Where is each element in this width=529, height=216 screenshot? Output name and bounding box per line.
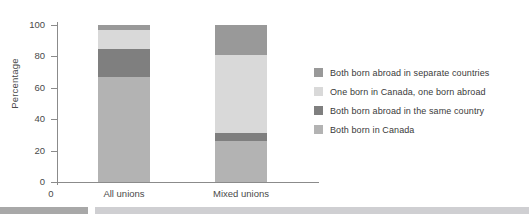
bar-segment[interactable] — [98, 77, 150, 182]
y-axis-tick-label: 20 — [3, 145, 45, 156]
bar-mixed-unions[interactable] — [215, 25, 267, 182]
legend-swatch-icon — [314, 106, 323, 115]
legend-item-label: Both born abroad in the same country — [330, 106, 484, 116]
legend-swatch-icon — [314, 125, 323, 134]
legend-item-label: Both born in Canada — [330, 125, 414, 135]
bar-segment[interactable] — [98, 49, 150, 77]
bar-segment[interactable] — [215, 133, 267, 141]
legend-item[interactable]: Both born abroad in the same country — [314, 101, 528, 120]
plot-area — [57, 25, 317, 182]
bar-segment[interactable] — [215, 141, 267, 182]
stacked-bar-chart: Percentage 020406080100 All unionsMixed … — [0, 0, 529, 216]
y-axis-tick-label: 40 — [3, 113, 45, 124]
y-axis-tick-label: 100 — [3, 19, 45, 30]
y-axis-tick-label: 0 — [3, 176, 45, 187]
footer-accent-bar-right — [95, 207, 529, 214]
y-axis-tick-label: 80 — [3, 50, 45, 61]
x-axis-label-all-unions: All unions — [64, 188, 184, 199]
y-axis-tick — [51, 182, 57, 183]
bar-segment[interactable] — [98, 25, 150, 30]
origin-label: 0 — [38, 188, 64, 199]
legend-item[interactable]: Both born abroad in separate countries — [314, 63, 528, 82]
footer-accent-bar-left — [0, 207, 88, 214]
bar-all-unions[interactable] — [98, 25, 150, 182]
legend-item-label: One born in Canada, one born abroad — [330, 87, 486, 97]
legend-swatch-icon — [314, 87, 323, 96]
legend-swatch-icon — [314, 68, 323, 77]
y-axis-tick-label: 60 — [3, 82, 45, 93]
chart-legend: Both born abroad in separate countriesOn… — [314, 63, 528, 139]
x-axis-line — [57, 182, 319, 183]
bar-segment[interactable] — [98, 30, 150, 49]
legend-item[interactable]: Both born in Canada — [314, 120, 528, 139]
x-axis-label-mixed-unions: Mixed unions — [181, 188, 301, 199]
legend-item[interactable]: One born in Canada, one born abroad — [314, 82, 528, 101]
bar-segment[interactable] — [215, 55, 267, 134]
bar-segment[interactable] — [215, 25, 267, 55]
legend-item-label: Both born abroad in separate countries — [330, 68, 489, 78]
